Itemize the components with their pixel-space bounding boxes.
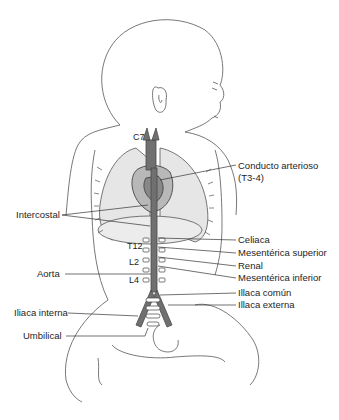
head-outline bbox=[102, 20, 224, 132]
label-iliaca-interna: Iliaca interna bbox=[14, 308, 68, 318]
label-conducto-arterioso: Conducto arterioso bbox=[238, 161, 318, 171]
label-illaca-externa: Illaca externa bbox=[238, 300, 295, 310]
label-celiaca: Celiaca bbox=[238, 235, 270, 245]
label-c7: C7 bbox=[133, 132, 145, 142]
label-mesenterica-superior: Mesentérica superior bbox=[238, 248, 327, 258]
label-l2: L2 bbox=[129, 257, 139, 267]
label-conducto-level: (T3-4) bbox=[238, 173, 264, 183]
label-umbilical: Umbilical bbox=[23, 331, 62, 341]
label-illaca-comun: Illaca común bbox=[238, 288, 291, 298]
label-l4: L4 bbox=[129, 275, 139, 285]
label-intercostal: Intercostal bbox=[16, 210, 60, 220]
ear-icon bbox=[153, 87, 167, 112]
label-renal: Renal bbox=[238, 261, 263, 271]
label-t12: T12 bbox=[127, 241, 143, 251]
label-mesenterica-inferior: Mesentérica inferior bbox=[238, 273, 321, 283]
label-aorta: Aorta bbox=[37, 269, 60, 279]
